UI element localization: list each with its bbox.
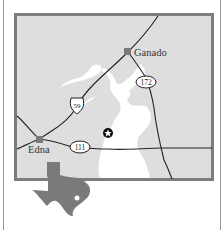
route-59-number: 59 [74,102,82,110]
city-label-ganado: Ganado [134,47,167,58]
map-figure: 59 172 111 Ganado Edna [0,0,224,230]
location-dot [75,196,80,201]
city-marker-edna [36,136,43,143]
star-icon [103,128,113,138]
city-label-edna: Edna [28,144,50,155]
route-172-number: 172 [140,78,152,87]
city-marker-ganado [124,48,131,55]
route-111-number: 111 [75,143,86,152]
